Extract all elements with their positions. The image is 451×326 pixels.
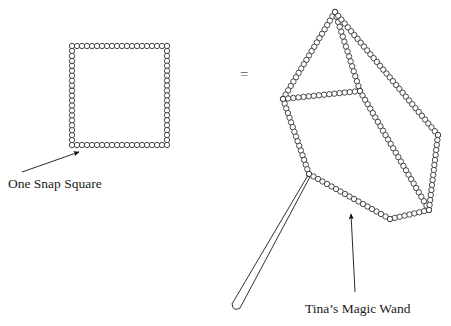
snap-bead bbox=[434, 147, 439, 152]
snap-bead bbox=[429, 182, 434, 187]
snap-bead bbox=[434, 142, 439, 147]
snap-bead bbox=[332, 91, 337, 96]
snap-bead bbox=[432, 157, 437, 162]
snap-bead bbox=[428, 197, 433, 202]
snap-bead bbox=[435, 132, 440, 137]
snap-bead bbox=[337, 90, 342, 95]
magic-wand-arrow bbox=[351, 214, 355, 292]
snap-bead bbox=[426, 207, 431, 212]
snap-bead bbox=[430, 177, 435, 182]
snap-bead bbox=[327, 92, 332, 97]
magic-wand bbox=[232, 175, 310, 309]
bead-cube bbox=[280, 9, 440, 221]
magic-wand-label: Tina’s Magic Wand bbox=[305, 302, 410, 317]
snap-bead bbox=[291, 95, 296, 100]
equals-sign: = bbox=[240, 67, 248, 82]
snap-bead bbox=[429, 187, 434, 192]
snap-bead bbox=[431, 167, 436, 172]
snap-bead bbox=[428, 192, 433, 197]
snap-bead bbox=[433, 152, 438, 157]
snap-bead bbox=[306, 94, 311, 99]
snap-bead bbox=[311, 93, 316, 98]
snap-bead bbox=[347, 89, 352, 94]
snap-bead bbox=[435, 137, 440, 142]
diagram-svg bbox=[0, 0, 451, 326]
snap-bead bbox=[342, 90, 347, 95]
snap-bead bbox=[285, 96, 290, 101]
snap-square bbox=[69, 43, 169, 147]
snap-square-label: One Snap Square bbox=[8, 177, 102, 192]
snap-bead bbox=[296, 95, 301, 100]
snap-bead bbox=[352, 89, 357, 94]
snap-bead bbox=[321, 92, 326, 97]
figure-canvas: = One Snap Square Tina’s Magic Wand bbox=[0, 0, 451, 326]
snap-square-arrow bbox=[22, 152, 79, 172]
snap-bead bbox=[427, 202, 432, 207]
snap-bead bbox=[431, 172, 436, 177]
snap-bead bbox=[432, 162, 437, 167]
snap-bead bbox=[316, 93, 321, 98]
snap-bead bbox=[69, 48, 74, 53]
snap-bead bbox=[301, 94, 306, 99]
